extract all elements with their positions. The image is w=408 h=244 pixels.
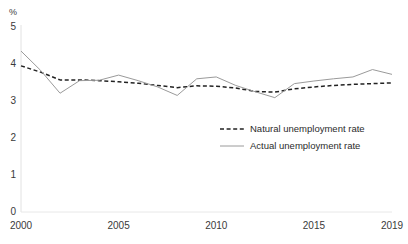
series-line-actual-unemployment-rate (21, 51, 392, 98)
legend-label-actual: Actual unemployment rate (250, 141, 360, 151)
legend-solid-line-icon (220, 141, 244, 151)
legend-dashed-line-icon (220, 124, 244, 134)
legend-item-actual: Actual unemployment rate (220, 137, 390, 154)
chart-legend: Natural unemployment rate Actual unemplo… (220, 120, 390, 154)
legend-label-natural: Natural unemployment rate (250, 124, 365, 134)
legend-item-natural: Natural unemployment rate (220, 120, 390, 137)
